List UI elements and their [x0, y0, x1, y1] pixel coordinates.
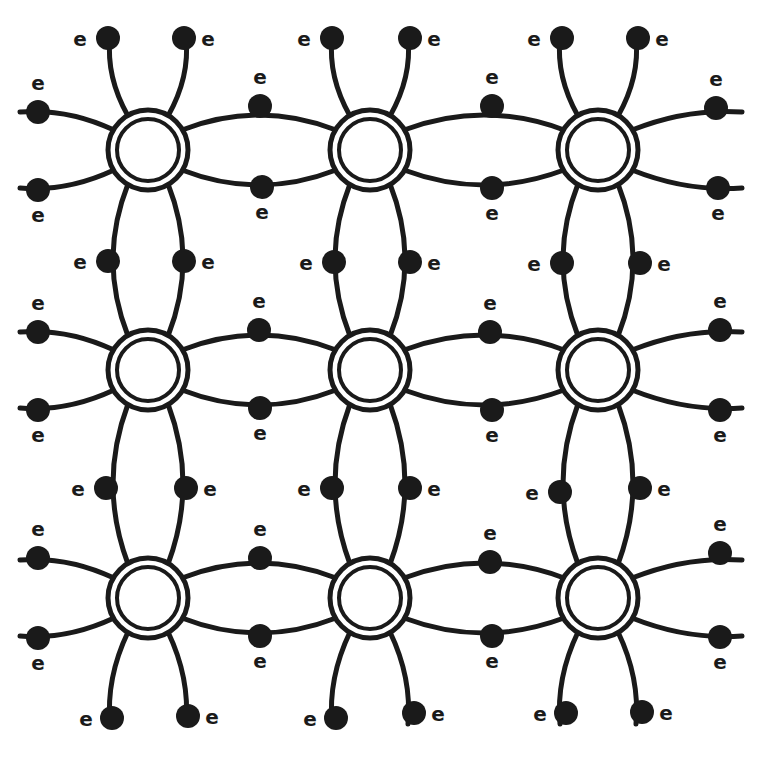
electron-label: e [427, 251, 441, 275]
atom-core [558, 558, 638, 638]
crystal-lattice-diagram: eeeeeeeeeeeeeeeeeeeeeeeeeeeeeeeeeeeeeeee… [0, 0, 762, 758]
electron-label: e [31, 423, 45, 447]
electron-dot [398, 250, 422, 274]
electron-dot [172, 26, 196, 50]
electron-dot [248, 396, 272, 420]
electron-label: e [297, 27, 311, 51]
atom-core [558, 110, 638, 190]
electron-label: e [427, 27, 441, 51]
electron-dot [26, 100, 50, 124]
atom-core [108, 558, 188, 638]
electron-dot [172, 249, 196, 273]
atom-inner-ring [339, 567, 401, 629]
electron-label: e [201, 27, 215, 51]
electron-dot [480, 176, 504, 200]
electron-label: e [483, 521, 497, 545]
electron-dot [26, 178, 50, 202]
electron-label: e [713, 512, 727, 536]
electron-dot [26, 546, 50, 570]
electron-dot [250, 175, 274, 199]
electron-label: e [31, 517, 45, 541]
electron-label: e [299, 251, 313, 275]
electron-label: e [31, 203, 45, 227]
bond-line [618, 38, 637, 116]
electron-label: e [71, 477, 85, 501]
electron-dot [94, 476, 118, 500]
electron-label: e [205, 705, 219, 729]
electron-label: e [427, 477, 441, 501]
electron-dot [176, 704, 200, 728]
electron-label: e [31, 71, 45, 95]
electron-label: e [203, 477, 217, 501]
electron-label: e [31, 651, 45, 675]
electron-label: e [252, 289, 266, 313]
atom-core [330, 110, 410, 190]
atom-inner-ring [117, 339, 179, 401]
electron-label: e [303, 707, 317, 731]
atom-core [108, 110, 188, 190]
electron-label: e [253, 421, 267, 445]
atom-core [558, 330, 638, 410]
electron-dot [478, 550, 502, 574]
electron-label: e [533, 702, 547, 726]
electron-label: e [709, 67, 723, 91]
electron-label: e [711, 201, 725, 225]
electron-label: e [485, 649, 499, 673]
electron-label: e [255, 200, 269, 224]
electron-label: e [485, 201, 499, 225]
electron-label: e [79, 707, 93, 731]
atom-core [108, 330, 188, 410]
atom-inner-ring [567, 119, 629, 181]
electron-label: e [655, 27, 669, 51]
electron-label: e [431, 702, 445, 726]
electron-label: e [201, 250, 215, 274]
atom-cores [108, 110, 638, 638]
electron-dot [708, 625, 732, 649]
electron-dot [550, 251, 574, 275]
electron-label: e [527, 27, 541, 51]
atom-inner-ring [339, 119, 401, 181]
electron-label: e [253, 649, 267, 673]
atom-inner-ring [117, 567, 179, 629]
electron-dot [324, 706, 348, 730]
electron-label: e [527, 252, 541, 276]
electron-dot [626, 26, 650, 50]
electron-dot [26, 626, 50, 650]
electron-dot [554, 701, 578, 725]
electron-dot [548, 480, 572, 504]
electron-dot [708, 541, 732, 565]
electron-dot [322, 250, 346, 274]
electron-dot [704, 96, 728, 120]
bond-line [390, 38, 409, 116]
electron-dot [96, 249, 120, 273]
electron-dot [630, 700, 654, 724]
electron-dot [480, 398, 504, 422]
electron-label: e [485, 65, 499, 89]
atom-inner-ring [567, 339, 629, 401]
electron-dot [320, 476, 344, 500]
electron-dot [100, 706, 124, 730]
electron-dot [628, 476, 652, 500]
electron-label: e [253, 65, 267, 89]
electron-dot [398, 476, 422, 500]
electron-dot [248, 624, 272, 648]
electron-label: e [713, 423, 727, 447]
electron-label: e [485, 423, 499, 447]
electron-label: e [297, 477, 311, 501]
atom-core [330, 558, 410, 638]
electron-dot [480, 624, 504, 648]
electron-label: e [31, 291, 45, 315]
electron-dot [628, 251, 652, 275]
electron-dot [26, 320, 50, 344]
bond-line [404, 115, 564, 130]
bond-line [109, 38, 128, 116]
electron-label: e [657, 252, 671, 276]
electron-dot [174, 476, 198, 500]
electron-dot [96, 26, 120, 50]
atom-inner-ring [567, 567, 629, 629]
electron-label: e [73, 250, 87, 274]
atom-inner-ring [117, 119, 179, 181]
electron-dot [26, 398, 50, 422]
electron-dot [708, 318, 732, 342]
electron-dot [706, 176, 730, 200]
